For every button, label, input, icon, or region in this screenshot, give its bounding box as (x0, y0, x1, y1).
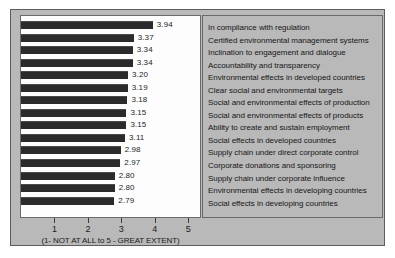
bar-value-label: 2.98 (125, 144, 141, 155)
bar-value-label: 3.11 (129, 132, 144, 143)
bar (21, 134, 125, 142)
legend-item: Environmental effects in developing coun… (208, 185, 382, 198)
bar-value-label: 3.15 (130, 119, 146, 130)
bar-value-label: 3.37 (138, 32, 154, 43)
legend-items: In compliance with regulationCertified e… (208, 22, 382, 210)
legend-panel: In compliance with regulationCertified e… (202, 15, 383, 218)
bar (21, 159, 120, 167)
bar-row: 3.19 (21, 82, 200, 95)
bar-row: 3.15 (21, 119, 200, 132)
legend-item: Accountability and transparency (208, 60, 382, 73)
legend-item: Social effects in developing countries (208, 198, 382, 211)
x-axis-tick-label: 1 (52, 223, 57, 235)
bar-row: 3.18 (21, 94, 200, 107)
x-axis-tick-label: 2 (85, 223, 90, 235)
bar (21, 21, 153, 29)
bar-row: 2.80 (21, 182, 200, 195)
bar-row: 2.79 (21, 195, 200, 208)
bar (21, 184, 115, 192)
bar (21, 96, 127, 104)
bar-value-label: 3.94 (157, 19, 173, 30)
legend-item: Supply chain under corporate influence (208, 173, 382, 186)
legend-item: Social and environmental effects of prod… (208, 110, 382, 123)
legend-item: Certified environmental management syste… (208, 35, 382, 48)
bar (21, 109, 126, 117)
x-axis-tick-label: 3 (119, 223, 124, 235)
legend-item: Inclination to engagement and dialogue (208, 47, 382, 60)
bar-row: 2.98 (21, 144, 200, 157)
bar-value-label: 2.80 (119, 182, 135, 193)
bar-row: 3.34 (21, 57, 200, 70)
plot-area: 3.943.373.343.343.203.193.183.153.153.11… (20, 15, 201, 218)
bar-row: 2.97 (21, 157, 200, 170)
x-axis-tick-labels: 12345 (20, 223, 201, 237)
bar (21, 172, 115, 180)
bar-row: 3.37 (21, 32, 200, 45)
legend-item: Social and environmental effects of prod… (208, 97, 382, 110)
bar-value-label: 2.97 (124, 157, 140, 168)
bar (21, 59, 133, 67)
bar-value-label: 3.20 (132, 69, 148, 80)
x-axis-caption: (1- NOT AT ALL to 5 - GREAT EXTENT) (20, 236, 201, 245)
legend-item: Corporate donations and sponsoring (208, 160, 382, 173)
bar-value-label: 3.34 (137, 57, 153, 68)
bar-row: 3.15 (21, 107, 200, 120)
legend-item: Social effects in developed countries (208, 135, 382, 148)
bar (21, 71, 128, 79)
bar-row: 3.34 (21, 44, 200, 57)
legend-item: Supply chain under direct corporate cont… (208, 147, 382, 160)
x-axis-tick-label: 5 (186, 223, 191, 235)
legend-item: Clear social and environmental targets (208, 85, 382, 98)
bar (21, 197, 114, 205)
bar-value-label: 2.79 (118, 195, 134, 206)
bar-value-label: 3.15 (130, 107, 146, 118)
bar-row: 2.80 (21, 170, 200, 183)
bar-series: 3.943.373.343.343.203.193.183.153.153.11… (21, 19, 200, 215)
bar-row: 3.94 (21, 19, 200, 32)
bar-value-label: 3.34 (137, 44, 153, 55)
bar-chart-figure: 3.943.373.343.343.203.193.183.153.153.11… (0, 0, 395, 258)
bar-row: 3.20 (21, 69, 200, 82)
bar (21, 146, 121, 154)
x-axis-tick-label: 4 (152, 223, 157, 235)
bar (21, 46, 133, 54)
bar (21, 84, 128, 92)
bar (21, 121, 126, 129)
legend-item: Ability to create and sustain employment (208, 122, 382, 135)
legend-item: Environmental effects in developed count… (208, 72, 382, 85)
bar-value-label: 3.18 (131, 94, 147, 105)
bar-value-label: 3.19 (132, 82, 148, 93)
chart-panel: 3.943.373.343.343.203.193.183.153.153.11… (10, 9, 385, 246)
legend-item: In compliance with regulation (208, 22, 382, 35)
bar-row: 3.11 (21, 132, 200, 145)
bar-value-label: 2.80 (119, 170, 135, 181)
bar (21, 34, 134, 42)
